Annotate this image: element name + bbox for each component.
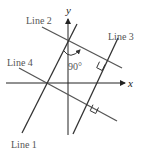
angle-label: 90°: [68, 61, 82, 72]
line-3: [73, 38, 118, 134]
line-1-label: Line 1: [11, 139, 37, 150]
diagram-canvas: x y Line 2 Line 4 Line 1 Line 3 90°: [0, 0, 141, 154]
x-axis-label: x: [127, 77, 133, 89]
line-4-label: Line 4: [7, 57, 33, 68]
line-3-label: Line 3: [108, 31, 134, 42]
line-2-label: Line 2: [26, 15, 52, 26]
y-axis-label: y: [65, 4, 71, 16]
angle-arc: [64, 50, 80, 55]
line-1: [22, 24, 77, 133]
